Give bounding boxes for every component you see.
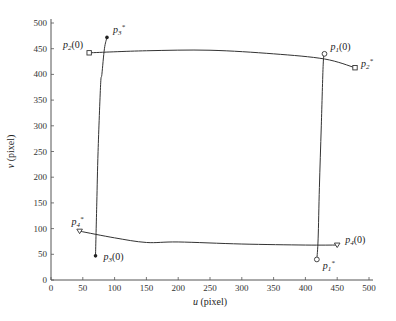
y-tick-label: 150	[34, 198, 48, 208]
point-label: p2(0)	[62, 39, 83, 52]
y-tick-label: 350	[34, 95, 48, 105]
point-label: p3(0)	[103, 251, 124, 264]
y-axis-label: v (pixel)	[5, 135, 17, 169]
x-tick-label: 100	[108, 283, 122, 293]
y-tick-label: 0	[43, 275, 48, 285]
y-tick-label: 400	[34, 69, 48, 79]
y-tick-label: 50	[38, 249, 48, 259]
point-marker-square	[353, 66, 357, 70]
point-marker-circle	[314, 257, 319, 262]
x-tick-label: 300	[235, 283, 249, 293]
point-label: p1(0)	[329, 41, 350, 54]
point-marker-circle	[322, 51, 327, 56]
point-marker-dot	[105, 36, 109, 40]
point-label: p2*	[360, 57, 374, 71]
trajectory-line	[80, 231, 338, 245]
x-tick-label: 500	[362, 283, 376, 293]
x-tick-label: 50	[78, 283, 88, 293]
point-label: p1*	[322, 259, 336, 273]
point-marker-square	[87, 51, 91, 55]
y-tick-label: 100	[34, 224, 48, 234]
point-label: p4*	[71, 215, 85, 229]
x-tick-label: 350	[267, 283, 281, 293]
point-marker-dot	[94, 254, 98, 258]
y-tick-label: 250	[34, 147, 48, 157]
x-tick-label: 150	[140, 283, 154, 293]
y-tick-label: 500	[34, 18, 48, 28]
y-tick-label: 200	[34, 172, 48, 182]
trajectory-line	[317, 54, 325, 260]
x-tick-label: 450	[330, 283, 344, 293]
x-tick-label: 250	[203, 283, 217, 293]
point-label: p3*	[112, 23, 126, 37]
trajectory-line	[89, 50, 355, 68]
trajectory-line	[96, 37, 107, 255]
x-tick-label: 400	[299, 283, 313, 293]
x-tick-label: 200	[171, 283, 185, 293]
y-tick-label: 450	[34, 44, 48, 54]
point-label: p4(0)	[344, 234, 365, 247]
trajectory-chart: 0501001502002503003504004505000501001502…	[0, 0, 396, 321]
x-tick-label: 0	[49, 283, 54, 293]
x-axis-label: u (pixel)	[193, 296, 227, 308]
y-tick-label: 300	[34, 121, 48, 131]
